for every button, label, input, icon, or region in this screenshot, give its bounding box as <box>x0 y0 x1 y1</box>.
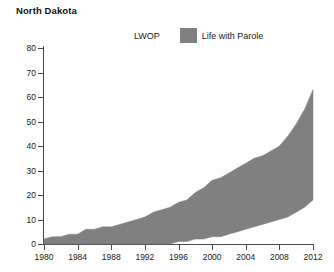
area-series-group <box>0 0 334 272</box>
chart-container: North Dakota LWOP Life with Parole 80706… <box>0 0 334 272</box>
area-series-life-with-parole <box>44 90 313 244</box>
